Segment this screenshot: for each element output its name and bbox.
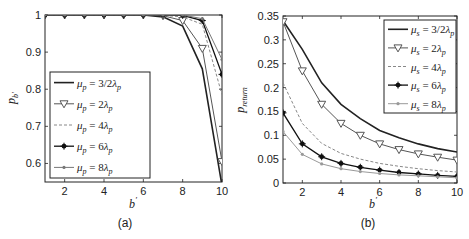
legend-a: μp = 3/2λpμp = 2λpμp = 4λpμp = 6λpμp = 8… bbox=[50, 72, 150, 178]
marker-dot-icon bbox=[63, 13, 66, 16]
y-tick-label: 0.3 bbox=[264, 34, 279, 46]
y-tick-label: 0.35 bbox=[258, 10, 279, 22]
marker-dot-icon bbox=[455, 176, 458, 179]
y-tick-label: 0.8 bbox=[26, 83, 41, 95]
y-axis-label-a: pb′ bbox=[4, 92, 20, 105]
x-tick-label: 8 bbox=[415, 186, 421, 198]
caption-b: (b) bbox=[361, 216, 376, 230]
marker-dot-icon bbox=[436, 175, 439, 178]
x-tick-label: 2 bbox=[62, 185, 68, 197]
y-tick-label: 0.1 bbox=[264, 129, 279, 141]
x-tick-label: 8 bbox=[180, 185, 186, 197]
y-tick-label: 0.6 bbox=[26, 157, 41, 169]
marker-dot-icon bbox=[142, 13, 145, 16]
x-tick-label: 4 bbox=[338, 186, 344, 198]
marker-dot-icon bbox=[281, 130, 284, 133]
x-tick-label: 10 bbox=[451, 186, 463, 198]
marker-dot-icon bbox=[220, 58, 223, 61]
x-axis-label-a: b′ bbox=[129, 195, 138, 211]
caption-a: (a) bbox=[118, 216, 133, 230]
marker-dot-icon bbox=[62, 166, 65, 169]
y-axis-label-b: preturn bbox=[233, 87, 249, 114]
marker-dot-icon bbox=[201, 17, 204, 20]
marker-dot-icon bbox=[122, 13, 125, 16]
x-axis-label-b: b′ bbox=[369, 195, 378, 211]
y-tick-label: 0.05 bbox=[258, 153, 279, 165]
marker-dot-icon bbox=[181, 13, 184, 16]
y-tick-label: 0 bbox=[273, 177, 279, 189]
x-tick-label: 6 bbox=[377, 186, 383, 198]
figure: 246810 0.60.70.80.91 μp = 3/2λpμp = 2λpμ… bbox=[0, 0, 469, 239]
marker-dot-icon bbox=[301, 153, 304, 156]
marker-dot-icon bbox=[378, 172, 381, 175]
y-tick-label: 0.25 bbox=[258, 58, 279, 70]
y-tick-label: 0.9 bbox=[26, 46, 41, 58]
marker-dot-icon bbox=[339, 167, 342, 170]
x-tick-label: 10 bbox=[216, 185, 228, 197]
marker-dot-icon bbox=[396, 102, 399, 105]
y-tick-label: 0.7 bbox=[26, 120, 41, 132]
x-tick-label: 4 bbox=[101, 185, 107, 197]
marker-dot-icon bbox=[359, 170, 362, 173]
chart-panel-b: 246810 00.050.10.150.20.250.30.35 μs = 3… bbox=[233, 10, 463, 230]
marker-dot-icon bbox=[397, 173, 400, 176]
x-tick-label: 2 bbox=[299, 186, 305, 198]
y-tick-label: 1 bbox=[35, 9, 41, 21]
x-tick-label: 6 bbox=[140, 185, 146, 197]
marker-dot-icon bbox=[102, 13, 105, 16]
marker-dot-icon bbox=[320, 162, 323, 165]
marker-dot-icon bbox=[417, 174, 420, 177]
legend-b: μs = 3/2λpμs = 2λpμs = 4λpμs = 6λpμs = 8… bbox=[384, 20, 456, 113]
chart-panel-a: 246810 0.60.70.80.91 μp = 3/2λpμp = 2λpμ… bbox=[4, 9, 228, 230]
y-tick-label: 0.15 bbox=[258, 105, 279, 117]
marker-dot-icon bbox=[43, 13, 46, 16]
y-tick-label: 0.2 bbox=[264, 82, 279, 94]
marker-dot-icon bbox=[161, 13, 164, 16]
marker-dot-icon bbox=[83, 13, 86, 16]
